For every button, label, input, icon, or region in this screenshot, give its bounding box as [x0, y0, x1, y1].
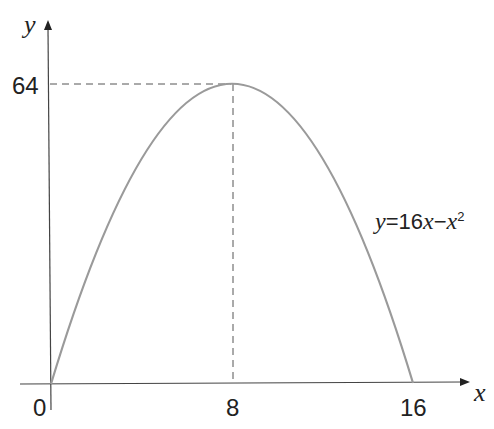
chart-root: y x 64 0 8 16 y=16x−x2: [0, 0, 494, 429]
x-tick-8: 8: [226, 396, 239, 420]
curve-label-eq: =16: [386, 209, 423, 234]
curve-label-x2: x: [447, 208, 458, 234]
y-axis: [48, 28, 51, 410]
x-tick-16: 16: [400, 396, 427, 420]
parabola-curve: [51, 84, 413, 384]
x-axis-arrow-icon: [460, 378, 470, 386]
curve-label-y: y: [375, 208, 386, 234]
y-tick-64: 64: [12, 74, 39, 98]
x-tick-0: 0: [33, 396, 46, 420]
curve-label-x: x: [423, 208, 434, 234]
x-axis: [20, 382, 462, 384]
y-axis-label: y: [24, 12, 36, 38]
x-axis-label: x: [474, 380, 486, 406]
curve-label-exp: 2: [457, 209, 464, 224]
curve-label: y=16x−x2: [375, 208, 464, 235]
y-axis-arrow-icon: [44, 20, 52, 30]
curve-label-minus: −: [434, 209, 447, 234]
